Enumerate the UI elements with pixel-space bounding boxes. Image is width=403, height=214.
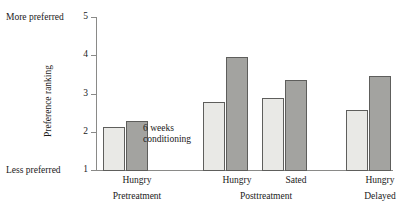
axis-top-caption: More preferred xyxy=(6,12,64,22)
bar xyxy=(346,110,368,171)
bar xyxy=(285,80,307,171)
group-label: Delayed xyxy=(364,191,396,201)
y-tick-label-5: 5 xyxy=(76,12,88,22)
category-label: Sated xyxy=(285,175,306,185)
y-tick-4 xyxy=(91,55,96,56)
category-label: Hungry xyxy=(222,175,251,185)
y-tick-label-1: 1 xyxy=(76,165,88,175)
conditioning-annotation: 6 weeks conditioning xyxy=(143,123,191,145)
group-label: Pretreatment xyxy=(113,191,162,201)
y-tick-label-3: 3 xyxy=(76,89,88,99)
y-axis-line xyxy=(96,17,97,170)
bar xyxy=(226,57,248,171)
annotation-line-1: 6 weeks xyxy=(143,123,191,134)
annotation-line-2: conditioning xyxy=(143,134,191,145)
bar-chart: More preferred Less preferred Preference… xyxy=(0,0,403,214)
bar xyxy=(103,127,125,171)
category-label: Hungry xyxy=(365,175,394,185)
y-axis-title: Preference ranking xyxy=(43,46,53,156)
bar xyxy=(203,102,225,171)
y-tick-label-2: 2 xyxy=(76,127,88,137)
y-tick-5 xyxy=(91,17,96,18)
group-label: Posttreatment xyxy=(240,191,292,201)
y-tick-3 xyxy=(91,94,96,95)
axis-bottom-caption: Less preferred xyxy=(6,165,61,175)
category-label: Hungry xyxy=(122,175,151,185)
y-tick-label-4: 4 xyxy=(76,50,88,60)
bar xyxy=(369,76,391,171)
bar xyxy=(262,98,284,171)
y-tick-2 xyxy=(91,132,96,133)
y-tick-1 xyxy=(91,170,96,171)
